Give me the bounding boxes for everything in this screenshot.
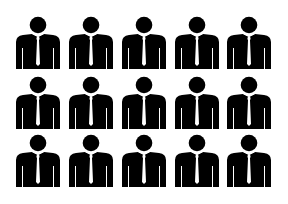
businessman-icon <box>173 76 221 130</box>
businessman-icon <box>120 76 168 130</box>
businessman-icon <box>225 16 273 70</box>
businessman-icon <box>67 76 115 130</box>
businessman-icon <box>225 134 273 188</box>
businessman-icon <box>14 76 62 130</box>
businessman-icon <box>120 134 168 188</box>
businessman-grid <box>0 0 288 204</box>
businessman-icon <box>67 134 115 188</box>
businessman-icon <box>14 134 62 188</box>
businessman-icon <box>173 16 221 70</box>
businessman-icon <box>225 76 273 130</box>
businessman-icon <box>14 16 62 70</box>
businessman-icon <box>120 16 168 70</box>
businessman-icon <box>173 134 221 188</box>
businessman-icon <box>67 16 115 70</box>
